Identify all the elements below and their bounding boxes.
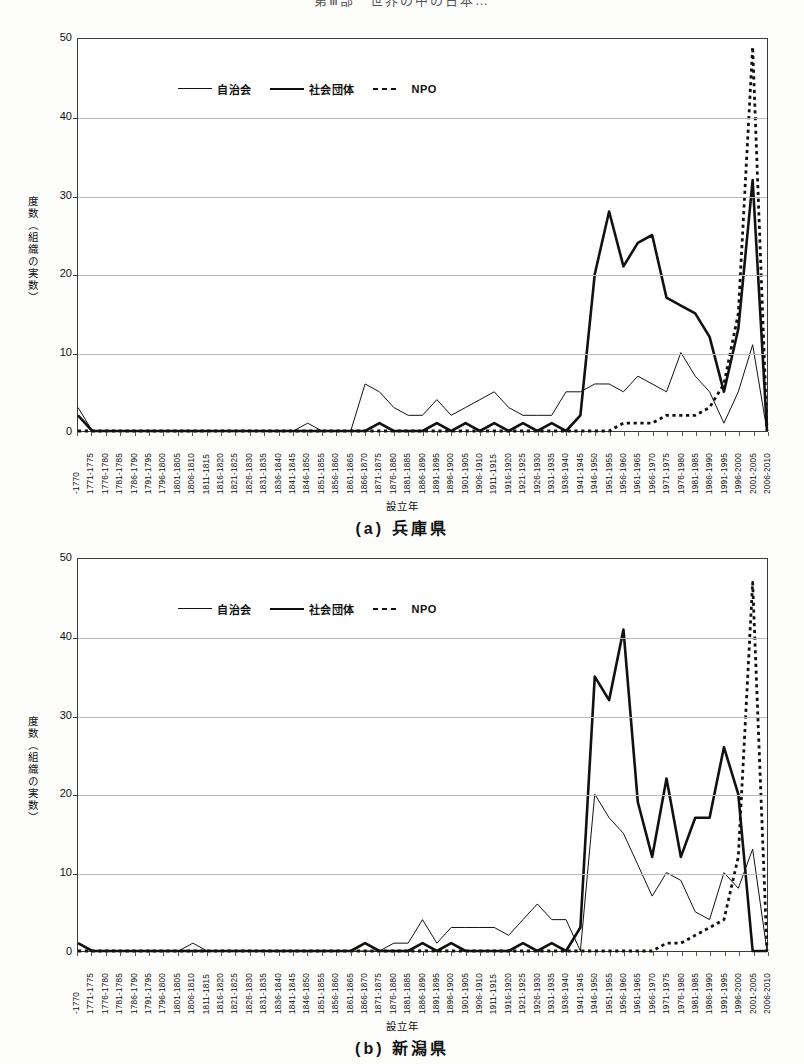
x-axis-title-a: 設立年 <box>0 498 804 513</box>
x-tick-label: 1931-1935 <box>548 973 556 1014</box>
page-header-text: 第Ⅲ部 世界の中の日本… <box>314 0 490 8</box>
x-tick-label: 1791-1795 <box>145 973 153 1014</box>
gridline <box>78 795 767 796</box>
x-tick-mark <box>538 432 539 436</box>
x-tick-mark <box>754 432 755 436</box>
y-tick-mark <box>73 717 78 718</box>
x-tick-label: 1811-1815 <box>203 454 211 494</box>
x-tick-label: 1831-1835 <box>260 453 268 494</box>
y-tick-column-a: 01020304050 <box>40 20 72 420</box>
y-axis-label-a: 度数（組織の実数） <box>22 170 38 330</box>
x-tick-mark <box>509 432 510 436</box>
x-tick-label: 1866-1870 <box>361 973 369 1014</box>
x-tick-label: 1971-1975 <box>663 453 671 494</box>
x-tick-mark <box>523 432 524 436</box>
x-tick-label: 1806-1810 <box>188 453 196 494</box>
x-tick-mark <box>336 432 337 436</box>
x-tick-label: -1770 <box>73 992 81 1014</box>
x-tick-label: 1941-1945 <box>577 453 585 494</box>
x-tick-mark <box>163 432 164 436</box>
x-tick-label: 1881-1885 <box>404 453 412 494</box>
x-tick-label: 1796-1800 <box>159 973 167 1014</box>
x-tick-label: 1891-1895 <box>433 453 441 494</box>
x-tick-label: 1901-1905 <box>462 453 470 494</box>
x-tick-label: 1876-1880 <box>390 453 398 494</box>
x-tick-label: 1871-1875 <box>375 453 383 494</box>
x-tick-mark <box>754 952 755 956</box>
x-tick-mark <box>581 432 582 436</box>
x-tick-label: 1981-1985 <box>692 973 700 1014</box>
x-tick-label: 1966-1970 <box>649 453 657 494</box>
y-tick-label: 30 <box>46 189 72 201</box>
x-tick-label: 1916-1920 <box>505 973 513 1014</box>
x-tick-label: 1986-1990 <box>706 453 714 494</box>
x-tick-mark <box>610 952 611 956</box>
y-tick-label: 50 <box>46 31 72 43</box>
x-tick-mark <box>451 952 452 956</box>
x-tick-mark <box>610 432 611 436</box>
x-tick-mark <box>408 432 409 436</box>
page-header: 第Ⅲ部 世界の中の日本… <box>0 0 804 15</box>
y-tick-label: 20 <box>46 787 72 799</box>
x-tick-mark <box>423 432 424 436</box>
x-tick-mark <box>235 432 236 436</box>
gridline <box>78 118 767 119</box>
x-tick-mark <box>279 952 280 956</box>
x-tick-label: 1906-1910 <box>476 453 484 494</box>
x-tick-label: 1821-1825 <box>231 973 239 1014</box>
x-tick-mark <box>595 432 596 436</box>
x-tick-mark <box>581 952 582 956</box>
x-tick-mark <box>365 952 366 956</box>
x-tick-label: 1871-1875 <box>375 973 383 1014</box>
x-tick-mark <box>192 952 193 956</box>
plot-area-a: 自治会 社会団体 NPO <box>77 38 768 432</box>
x-tick-label: 1981-1985 <box>692 453 700 494</box>
x-tick-label: 1996-2000 <box>735 453 743 494</box>
x-tick-mark <box>494 952 495 956</box>
x-tick-label: 1971-1975 <box>663 973 671 1014</box>
x-tick-label: 1966-1970 <box>649 973 657 1014</box>
y-tick-label: 0 <box>46 945 72 957</box>
x-tick-label: 1921-1925 <box>519 973 527 1014</box>
x-tick-label: 1806-1810 <box>188 973 196 1014</box>
x-tick-label: 1911-1915 <box>490 454 498 494</box>
figure-hyogo: 度数（組織の実数） 01020304050 自治会 社会団体 NPO -1770… <box>0 20 804 540</box>
x-tick-label: 1976-1980 <box>678 453 686 494</box>
series-line-自治会 <box>78 794 767 951</box>
x-tick-mark <box>768 432 769 436</box>
x-tick-mark <box>710 952 711 956</box>
x-tick-label: 1856-1860 <box>332 973 340 1014</box>
x-tick-mark <box>322 432 323 436</box>
x-tick-mark <box>696 952 697 956</box>
gridline <box>78 638 767 639</box>
plot-wrap-a: 度数（組織の実数） 01020304050 自治会 社会団体 NPO -1770… <box>0 20 804 480</box>
x-tick-label: 1786-1790 <box>131 973 139 1014</box>
series-line-NPO <box>78 47 767 431</box>
x-tick-mark <box>624 952 625 956</box>
y-axis-label-b: 度数（組織の実数） <box>22 690 38 850</box>
x-tick-mark <box>538 952 539 956</box>
figure-caption-a: (a) 兵庫県 <box>0 515 804 539</box>
x-tick-label: 1851-1855 <box>318 453 326 494</box>
x-tick-label: 1991-1995 <box>721 973 729 1014</box>
gridline <box>78 197 767 198</box>
figure-caption-b: (b) 新潟県 <box>0 1035 804 1059</box>
y-tick-label: 40 <box>46 110 72 122</box>
x-tick-label: 1841-1845 <box>289 973 297 1014</box>
series-svg-a <box>78 39 767 431</box>
x-tick-label: 1816-1820 <box>217 453 225 494</box>
x-tick-label: 1846-1850 <box>303 973 311 1014</box>
x-tick-mark <box>682 432 683 436</box>
x-tick-label: 1816-1820 <box>217 973 225 1014</box>
x-tick-label: 1811-1815 <box>203 974 211 1014</box>
x-tick-mark <box>307 432 308 436</box>
x-tick-label: 1851-1855 <box>318 973 326 1014</box>
x-tick-mark <box>768 952 769 956</box>
x-tick-mark <box>566 432 567 436</box>
x-tick-mark <box>351 952 352 956</box>
x-tick-label: 1801-1805 <box>174 973 182 1014</box>
x-tick-label: 1836-1840 <box>275 453 283 494</box>
x-tick-mark <box>451 432 452 436</box>
x-tick-mark <box>552 432 553 436</box>
x-tick-mark <box>336 952 337 956</box>
